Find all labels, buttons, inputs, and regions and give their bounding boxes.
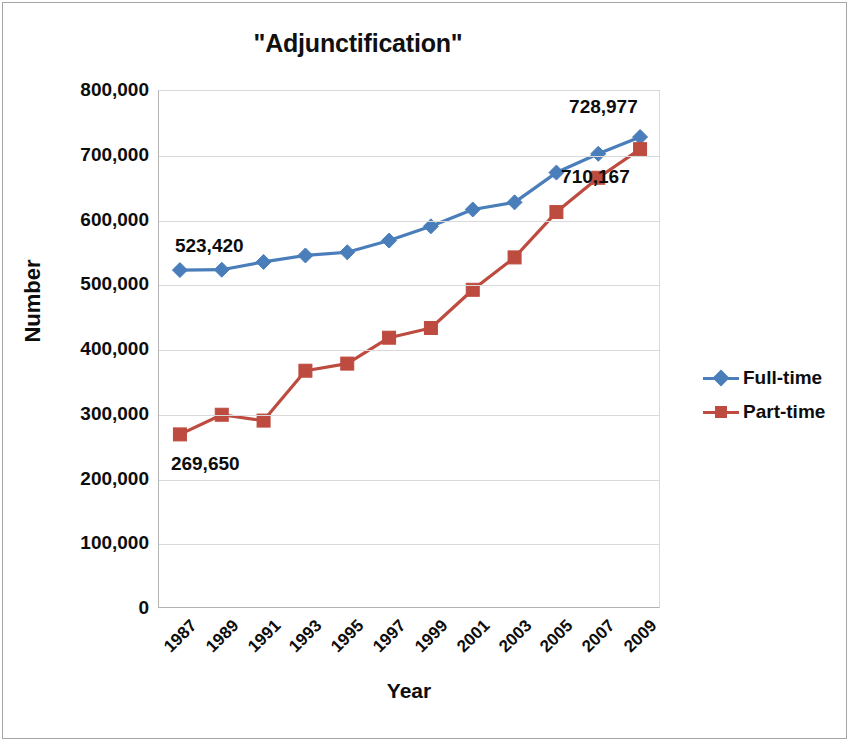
data-point-marker [424, 321, 437, 334]
chart-figure: "Adjunctification" 0100,000200,000300,00… [2, 2, 847, 739]
gridline [159, 415, 659, 416]
legend-swatch-full-time [703, 371, 739, 385]
gridline [159, 544, 659, 545]
data-point-marker [341, 357, 354, 370]
legend-item-full-time[interactable]: Full-time [703, 361, 843, 395]
gridline [159, 221, 659, 222]
data-point-marker [465, 202, 480, 217]
legend-label: Part-time [743, 401, 825, 423]
data-point-marker [634, 143, 647, 156]
legend-marker-square-icon [715, 406, 727, 418]
x-axis-tick-label: 1997 [364, 616, 411, 663]
x-axis-tick-label: 1993 [280, 616, 327, 663]
x-axis-tick-label: 2007 [573, 616, 620, 663]
data-point-marker [382, 233, 397, 248]
y-axis-title-wrap: Number [3, 3, 123, 740]
x-axis-tick-label: 1999 [405, 616, 452, 663]
series-line-part-time [180, 149, 640, 434]
chart-legend: Full-timePart-time [703, 361, 843, 429]
data-point-marker [257, 414, 270, 427]
data-point-marker [172, 263, 187, 278]
x-axis-tick-label: 1987 [154, 616, 201, 663]
data-label: 269,650 [171, 453, 240, 475]
x-axis-tick-label: 1995 [322, 616, 369, 663]
data-point-marker [550, 206, 563, 219]
legend-swatch-part-time [703, 405, 739, 419]
data-point-marker [298, 248, 313, 263]
gridline [159, 480, 659, 481]
gridline [159, 350, 659, 351]
data-point-marker [591, 146, 606, 161]
data-point-marker [299, 364, 312, 377]
data-point-marker [214, 262, 229, 277]
gridline [159, 285, 659, 286]
data-label: 710,167 [561, 166, 630, 188]
data-point-marker [173, 428, 186, 441]
x-axis-tick-label: 2009 [615, 616, 662, 663]
x-axis-tick-labels: 1987198919911993199519971999200120032005… [158, 610, 660, 680]
data-label: 728,977 [569, 96, 638, 118]
x-axis-tick-label: 1991 [238, 616, 285, 663]
legend-item-part-time[interactable]: Part-time [703, 395, 843, 429]
series-line-full-time [180, 137, 640, 270]
legend-label: Full-time [743, 367, 822, 389]
data-label: 523,420 [175, 235, 244, 257]
gridline [159, 156, 659, 157]
x-axis-tick-label: 2001 [447, 616, 494, 663]
x-axis-title: Year [158, 679, 660, 703]
data-point-marker [383, 331, 396, 344]
data-point-marker [340, 245, 355, 260]
y-axis-title: Number [20, 211, 46, 391]
x-axis-tick-label: 1989 [196, 616, 243, 663]
x-axis-tick-label: 2005 [531, 616, 578, 663]
data-point-marker [256, 254, 271, 269]
data-point-marker [508, 251, 521, 264]
legend-marker-diamond-icon [713, 370, 730, 387]
x-axis-tick-label: 2003 [489, 616, 536, 663]
